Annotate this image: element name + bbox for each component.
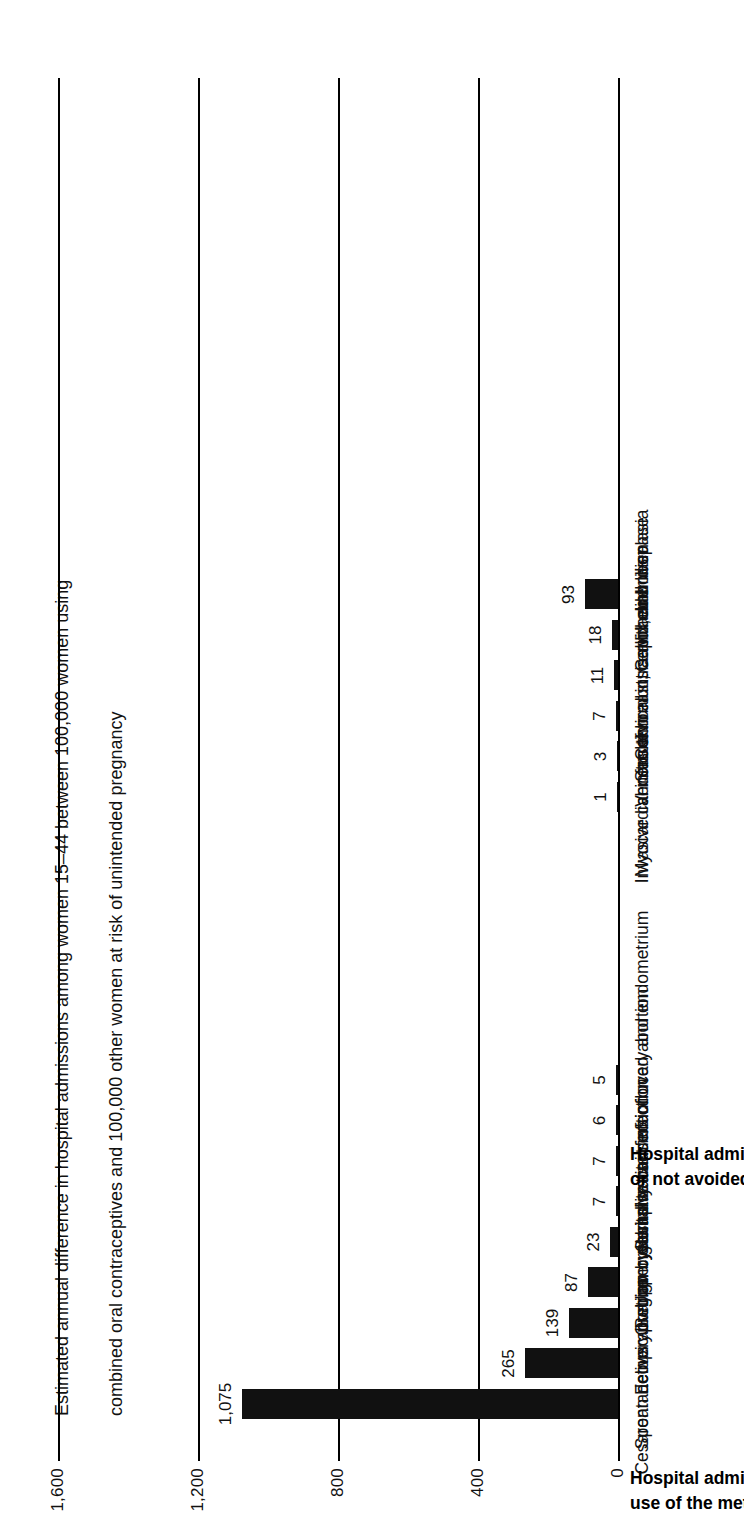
category-label: Invasive cancers of ovary and endometriu…	[632, 911, 653, 1250]
tick-mark-400	[478, 1448, 480, 1461]
bar	[616, 701, 618, 731]
plot-area: 04008001,2001,6001,075Cesarean delivery2…	[0, 0, 744, 1524]
chart-figure: Estimated annual difference in hospital …	[0, 0, 744, 1524]
tick-mark-1200	[198, 1448, 200, 1461]
bar	[242, 1389, 618, 1419]
bar	[616, 1146, 618, 1176]
gridline-800	[338, 78, 340, 1448]
bar-value-label: 139	[543, 1309, 563, 1337]
bar	[585, 580, 618, 610]
bar-value-label: 265	[499, 1349, 519, 1377]
axis-baseline	[618, 78, 620, 1448]
gridline-1200	[198, 78, 200, 1448]
bar-value-label: 23	[584, 1233, 604, 1252]
tick-label-1600: 1,600	[48, 1468, 68, 1524]
bar-value-label: 1	[591, 792, 611, 801]
bar	[588, 1268, 618, 1298]
tick-label-0: 0	[608, 1468, 628, 1524]
bar	[617, 782, 619, 812]
bar-value-label: 1,075	[216, 1383, 236, 1426]
tick-mark-800	[338, 1448, 340, 1461]
bar-value-label: 7	[590, 1156, 610, 1165]
group-heading-line-2: or not avoided by, use of the method	[630, 1167, 744, 1192]
bar	[616, 1065, 618, 1095]
bar	[617, 742, 619, 772]
bar	[569, 1308, 618, 1338]
tick-label-1200: 1,200	[188, 1468, 208, 1524]
bar	[616, 1187, 618, 1217]
bar-value-label: 3	[591, 752, 611, 761]
group-heading-line-1: Hospital admissions associated with,	[630, 1142, 744, 1167]
bar	[614, 661, 618, 691]
bar-value-label: 6	[590, 1116, 610, 1125]
bar	[525, 1349, 618, 1379]
bar-value-label: 93	[559, 585, 579, 604]
tick-label-400: 400	[468, 1468, 488, 1524]
bar-value-label: 7	[590, 711, 610, 720]
bar	[610, 1227, 618, 1257]
tick-label-800: 800	[328, 1468, 348, 1524]
gridline-1600	[58, 78, 60, 1448]
group-heading-line-1: Hospital admissions avoided by	[630, 1466, 744, 1491]
group-heading-2: Hospital admissions associated with,or n…	[630, 1142, 744, 1193]
bar-value-label: 11	[588, 667, 608, 685]
bar-value-label: 18	[586, 626, 606, 645]
bar	[616, 1106, 618, 1136]
group-heading-line-2: use of the method	[630, 1491, 744, 1516]
bar-value-label: 7	[590, 1197, 610, 1206]
group-heading-1: Hospital admissions avoided byuse of the…	[630, 1466, 744, 1517]
category-label: Gallbladder disease	[632, 517, 653, 672]
bar	[612, 620, 618, 650]
tick-mark-0	[618, 1448, 620, 1461]
tick-mark-1600	[58, 1448, 60, 1461]
bar-value-label: 5	[590, 1075, 610, 1084]
gridline-400	[478, 78, 480, 1448]
bar-value-label: 87	[562, 1273, 582, 1292]
